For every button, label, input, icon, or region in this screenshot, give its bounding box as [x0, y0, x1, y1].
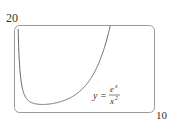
equation-annotation: y = e x x 2: [92, 83, 120, 106]
x-max-tick-label: 10: [156, 110, 167, 120]
svg-text:y =: y =: [92, 90, 107, 101]
svg-text:x: x: [109, 96, 114, 106]
y-max-tick-label: 20: [6, 12, 18, 24]
viewing-rectangle: [15, 26, 155, 113]
svg-text:2: 2: [115, 95, 118, 101]
svg-text:e: e: [110, 84, 114, 94]
function-plot: y = e x x 2: [0, 0, 172, 120]
svg-text:x: x: [114, 83, 118, 89]
